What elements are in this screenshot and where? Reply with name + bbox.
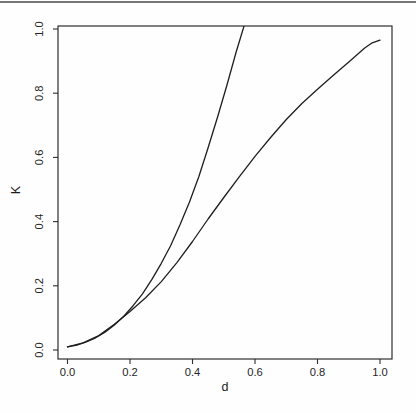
x-tick-label: 0.8 <box>310 366 326 378</box>
curve-2-gradual <box>68 40 381 347</box>
y-tick-label: 0.6 <box>33 150 45 166</box>
y-axis-label: K <box>9 185 23 194</box>
y-tick-label: 0.0 <box>33 342 45 358</box>
plot-frame <box>58 26 392 359</box>
x-tick-label: 1.0 <box>372 366 388 378</box>
x-tick-label: 0.4 <box>185 366 201 378</box>
y-tick-label: 0.4 <box>33 214 45 230</box>
x-tick-label: 0.2 <box>122 366 138 378</box>
x-tick-label: 0.0 <box>60 366 76 378</box>
y-tick-label: 0.8 <box>33 85 45 101</box>
x-axis-label: d <box>222 380 229 394</box>
y-tick-label: 1.0 <box>33 21 45 37</box>
y-tick-label: 0.2 <box>33 278 45 294</box>
plot-figure: 0.00.20.40.60.81.00.00.20.40.60.81.0 d K <box>0 0 416 413</box>
curve-1-steep <box>68 26 245 347</box>
x-tick-label: 0.6 <box>247 366 263 378</box>
chart-root: 0.00.20.40.60.81.00.00.20.40.60.81.0 <box>33 21 392 378</box>
line-chart-svg: 0.00.20.40.60.81.00.00.20.40.60.81.0 d K <box>0 0 416 413</box>
